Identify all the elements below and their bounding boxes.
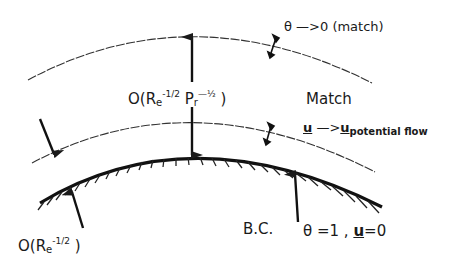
- thermal-layer-edge-curve: [28, 37, 372, 83]
- bc-values-label: θ =1 , u=0: [303, 224, 386, 239]
- momentum-thickness-label: O(Re-1/2 ): [18, 237, 81, 255]
- velocity-match-label: u —>upotential flow: [303, 121, 428, 137]
- momentum-edge-tick-icon: [264, 123, 274, 145]
- momentum-thickness-arrow: [72, 192, 83, 228]
- momentum-edge-arrow: [40, 119, 54, 154]
- wall-surface-curve: [40, 158, 382, 207]
- thermal-edge-tick-icon: [268, 35, 279, 58]
- bc-label: B.C.: [243, 222, 273, 237]
- outer-condition-label: θ —>0 (match): [284, 20, 384, 33]
- thermal-thickness-label: O(Re-1/2 Pr—½ ): [128, 90, 226, 108]
- match-label: Match: [306, 92, 352, 107]
- boundary-condition-arrow: [295, 174, 298, 222]
